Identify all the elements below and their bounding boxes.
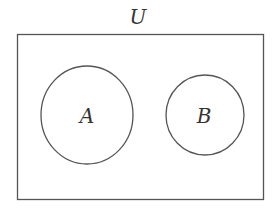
set-a-label: A — [78, 104, 94, 128]
universe-rectangle — [18, 35, 264, 200]
venn-diagram: U A B — [0, 0, 277, 213]
universe-label: U — [130, 5, 148, 29]
set-b-label: B — [196, 104, 212, 128]
